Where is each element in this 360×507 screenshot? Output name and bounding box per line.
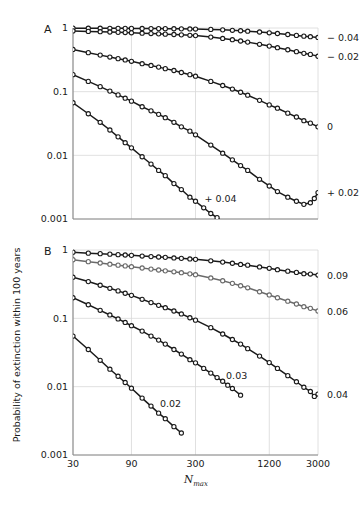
- data-point-marker: [129, 386, 133, 390]
- data-point-marker: [116, 374, 120, 378]
- data-point-marker: [267, 266, 271, 270]
- data-point-marker: [108, 30, 112, 34]
- data-point-marker: [221, 83, 225, 87]
- panel-b: 10.10.010.001B0.090.060.040.030.02: [41, 244, 348, 460]
- data-point-marker: [230, 386, 234, 390]
- data-point-marker: [149, 109, 153, 113]
- y-axis-title-text: Probability of extinction within 100 yea…: [11, 248, 22, 443]
- y-tick-label: 0.01: [47, 381, 68, 392]
- data-point-marker: [108, 262, 112, 266]
- data-point-marker: [116, 289, 120, 293]
- data-point-marker: [193, 33, 197, 37]
- data-point-marker: [209, 79, 213, 83]
- data-point-marker: [308, 306, 312, 310]
- data-point-marker: [98, 120, 102, 124]
- data-point-marker: [86, 29, 90, 33]
- data-point-marker: [71, 101, 75, 105]
- data-point-marker: [209, 35, 213, 39]
- data-point-marker: [188, 33, 192, 37]
- data-point-marker: [179, 271, 183, 275]
- data-point-marker: [157, 32, 161, 36]
- data-point-marker: [238, 90, 242, 94]
- series-label-right: − 0.04: [327, 32, 359, 43]
- data-point-marker: [316, 309, 320, 313]
- data-point-marker: [123, 380, 127, 384]
- data-point-marker: [294, 33, 298, 37]
- data-point-marker: [157, 112, 161, 116]
- data-point-marker: [149, 255, 153, 259]
- data-point-marker: [71, 334, 75, 338]
- data-point-marker: [179, 27, 183, 31]
- series-line: [73, 298, 241, 395]
- data-point-marker: [221, 220, 225, 224]
- data-point-marker: [302, 385, 306, 389]
- data-point-marker: [209, 211, 213, 215]
- data-point-marker: [238, 284, 242, 288]
- data-point-marker: [98, 358, 102, 362]
- data-point-marker: [172, 120, 176, 124]
- data-point-marker: [108, 128, 112, 132]
- data-point-marker: [163, 269, 167, 273]
- data-point-marker: [286, 269, 290, 273]
- data-point-marker: [275, 296, 279, 300]
- data-point-marker: [86, 347, 90, 351]
- data-point-marker: [294, 380, 298, 384]
- data-point-marker: [286, 299, 290, 303]
- series-label-right: 0.09: [327, 270, 348, 281]
- data-point-marker: [246, 168, 250, 172]
- data-point-marker: [267, 361, 271, 365]
- data-point-marker: [140, 254, 144, 258]
- series-line: [73, 103, 223, 222]
- data-point-marker: [71, 258, 75, 262]
- data-point-marker: [163, 342, 167, 346]
- data-point-marker: [98, 30, 102, 34]
- data-point-marker: [172, 68, 176, 72]
- x-tick-label: 30: [67, 458, 79, 469]
- data-point-marker: [86, 260, 90, 264]
- data-point-marker: [308, 272, 312, 276]
- data-point-marker: [129, 293, 133, 297]
- data-point-marker: [202, 206, 206, 210]
- data-point-marker: [188, 195, 192, 199]
- data-point-marker: [86, 112, 90, 116]
- data-point-marker: [108, 313, 112, 317]
- data-point-marker: [188, 358, 192, 362]
- data-point-marker: [108, 89, 112, 93]
- data-point-marker: [275, 46, 279, 50]
- data-point-marker: [308, 121, 312, 125]
- data-point-marker: [302, 51, 306, 55]
- data-point-marker: [172, 32, 176, 36]
- data-point-marker: [221, 279, 225, 283]
- data-point-marker: [230, 87, 234, 91]
- data-point-marker: [193, 318, 197, 322]
- data-point-marker: [267, 293, 271, 297]
- data-point-marker: [116, 57, 120, 61]
- data-point-marker: [98, 252, 102, 256]
- data-point-marker: [308, 35, 312, 39]
- data-point-marker: [129, 324, 133, 328]
- data-point-marker: [209, 371, 213, 375]
- data-point-marker: [286, 374, 290, 378]
- data-point-marker: [193, 361, 197, 365]
- data-point-marker: [294, 50, 298, 54]
- data-point-marker: [209, 27, 213, 31]
- data-point-marker: [246, 93, 250, 97]
- data-point-marker: [71, 296, 75, 300]
- data-point-marker: [316, 190, 320, 194]
- data-point-marker: [149, 404, 153, 408]
- series-label-inline: 0.03: [226, 370, 247, 381]
- data-point-marker: [140, 105, 144, 109]
- data-point-marker: [129, 253, 133, 257]
- data-point-marker: [116, 317, 120, 321]
- data-point-marker: [108, 367, 112, 371]
- data-point-marker: [193, 199, 197, 203]
- data-point-marker: [129, 26, 133, 30]
- data-point-marker: [172, 425, 176, 429]
- data-point-marker: [140, 62, 144, 66]
- data-point-marker: [257, 290, 261, 294]
- data-point-marker: [163, 255, 167, 259]
- series-label-inline: + 0.04: [205, 193, 237, 204]
- data-point-marker: [163, 306, 167, 310]
- y-tick-label: 0.001: [41, 449, 68, 460]
- data-point-marker: [267, 103, 271, 107]
